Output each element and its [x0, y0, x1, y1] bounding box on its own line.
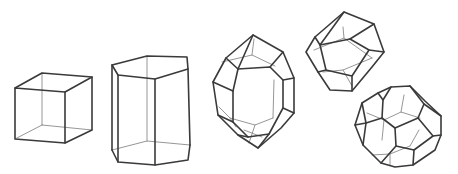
- cube-shape: [15, 73, 92, 143]
- pentagonal-prism-shape: [112, 56, 190, 165]
- polyhedra-figure: [0, 0, 458, 174]
- elongated-polyhedron-shape: [213, 35, 294, 148]
- rhombic-dodecahedron-shape: [306, 12, 384, 91]
- truncated-octahedron-shape: [355, 86, 441, 167]
